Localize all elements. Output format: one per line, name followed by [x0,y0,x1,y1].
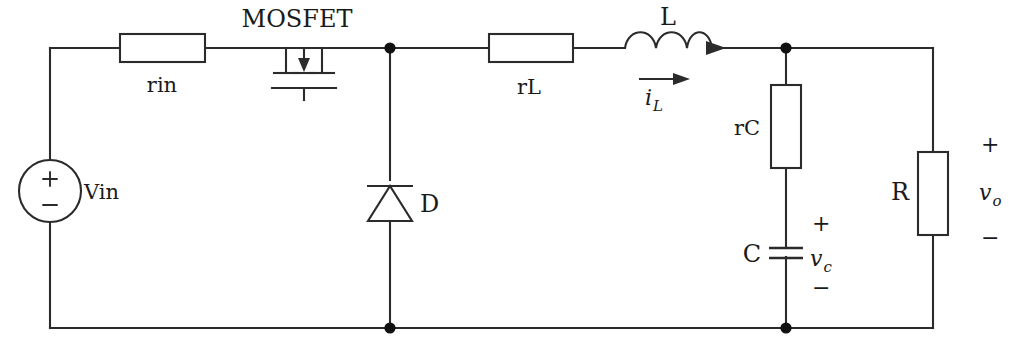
cap-plus-label: + [812,211,830,236]
output-plus-label: + [981,132,999,157]
junction-dot-icon [384,322,395,333]
inductor-resistor-label: rL [517,75,541,99]
circuit-diagram: Vin rin [0,0,1025,350]
junction-dot-icon [780,42,791,53]
circuit-canvas: Vin rin [0,0,1025,350]
inductor-current-label: iL [645,85,663,115]
resistor-icon [918,152,948,235]
current-direction-arrow-icon [639,73,690,85]
junction-dot-icon [780,322,791,333]
voltage-source-icon [19,160,81,222]
resistor-icon [489,34,573,62]
resistor-icon [120,34,205,62]
output-voltage-label: vo [979,180,1001,210]
inductor-flow-arrow-icon [706,41,726,55]
mosfet-icon [272,48,336,100]
resistor-icon [771,85,801,168]
output-minus-label: − [981,225,999,250]
diode-icon [367,186,413,221]
switch-label: MOSFET [242,5,353,33]
load-resistor-label: R [891,178,910,206]
cap-minus-label: − [812,275,830,300]
capacitor-label: C [743,240,761,268]
junction-dot-icon [384,42,395,53]
diode-label: D [420,190,439,218]
inductor-icon [625,32,726,55]
source-label: Vin [83,180,119,204]
inductor-label: L [660,3,676,31]
input-resistor-label: rin [147,73,177,97]
cap-voltage-label: vc [810,246,832,276]
mosfet-body-arrow-icon [298,58,310,72]
cap-resistor-label: rC [734,116,760,140]
